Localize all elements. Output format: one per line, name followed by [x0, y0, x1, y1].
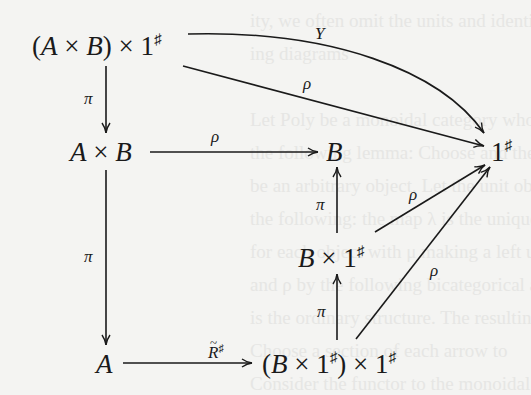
- label-pi-up-mid: π: [316, 196, 325, 214]
- label-pi-up-low: π: [317, 303, 326, 321]
- node-1sharp: 1♯: [491, 137, 512, 167]
- label-rho-center: ρ: [409, 186, 417, 204]
- node-Bx1sharp: B × 1♯: [298, 243, 364, 273]
- node-A: A: [96, 349, 113, 379]
- arrow-Y: [188, 34, 484, 133]
- arrow-rho-low: [356, 167, 490, 339]
- label-rho-mid: ρ: [211, 128, 219, 146]
- node-AxB-x-1sharp: (A × B) × 1♯: [32, 31, 161, 61]
- label-R-tilde-sharp: R♯: [208, 344, 224, 362]
- label-Y: Y: [315, 25, 324, 43]
- node-AxB: A × B: [70, 137, 132, 167]
- label-pi-left: π: [84, 248, 93, 266]
- label-pi-top: π: [84, 90, 93, 108]
- label-rho-low: ρ: [430, 262, 438, 280]
- arrow-rho-center: [375, 165, 485, 232]
- node-B: B: [326, 137, 343, 167]
- arrow-rho-top: [183, 66, 484, 146]
- node-Bx1sharp-x-1sharp: (B × 1♯) × 1♯: [262, 349, 396, 379]
- label-rho-top: ρ: [303, 75, 311, 93]
